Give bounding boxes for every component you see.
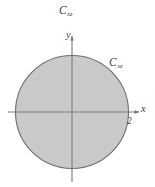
region-label-top: Cxz <box>59 5 72 17</box>
region-label-curve-subscript: xz <box>117 62 122 69</box>
figure-container: Cxz Cxz y x 2 <box>0 0 155 187</box>
x-axis-tick-label-2: 2 <box>127 117 132 127</box>
region-label-curve: Cxz <box>109 57 122 69</box>
y-axis-label: y <box>66 30 71 41</box>
region-label-top-symbol: C <box>59 4 67 16</box>
x-axis-label: x <box>141 104 146 115</box>
disk-diagram-svg <box>0 0 155 187</box>
region-label-top-subscript: xz <box>67 10 72 17</box>
region-label-curve-symbol: C <box>109 56 117 68</box>
x-axis-arrowhead <box>135 110 140 114</box>
